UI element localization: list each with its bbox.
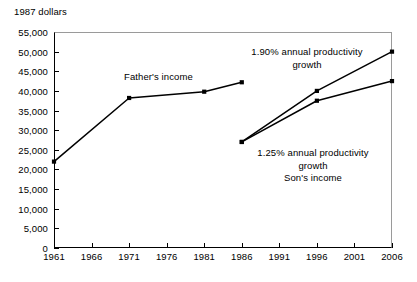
- y-axis-tick-mark: [54, 91, 59, 92]
- y-axis-tick-label: 15,000: [18, 184, 48, 195]
- y-axis-tick-mark: [54, 228, 59, 229]
- y-axis-tick-label: 40,000: [18, 85, 48, 96]
- y-axis-tick-mark: [54, 248, 59, 249]
- x-axis-tick-label: 1976: [156, 251, 178, 262]
- x-axis-tick-mark: [354, 243, 355, 248]
- x-axis-tick-mark: [129, 243, 130, 248]
- y-axis-tick-mark: [54, 111, 59, 112]
- y-axis-tick-label: 25,000: [18, 144, 48, 155]
- x-axis-tick-label: 1971: [118, 251, 140, 262]
- annotation-low-growth: 1.25% annual productivity growth Son's i…: [245, 147, 381, 185]
- x-axis-tick-label: 2006: [381, 251, 403, 262]
- x-axis-tick-label: 2001: [344, 251, 366, 262]
- x-axis-tick-mark: [92, 243, 93, 248]
- x-axis-tick-mark: [242, 243, 243, 248]
- x-axis-tick-label: 1986: [231, 251, 253, 262]
- x-axis-tick-mark: [279, 243, 280, 248]
- chart-container: 1987 dollars 05,00010,00015,00020,00025,…: [0, 0, 417, 282]
- y-axis-tick-label: 50,000: [18, 46, 48, 57]
- y-axis-tick-label: 10,000: [18, 203, 48, 214]
- x-axis-tick-label: 1991: [269, 251, 291, 262]
- x-axis-tick-mark: [392, 243, 393, 248]
- x-axis-tick-mark: [204, 243, 205, 248]
- x-axis-tick-mark: [317, 243, 318, 248]
- y-axis-tick-mark: [54, 71, 59, 72]
- x-axis-tick-label: 1961: [43, 251, 65, 262]
- x-axis-tick-label: 1981: [193, 251, 215, 262]
- x-axis-tick-mark: [54, 243, 55, 248]
- y-axis-tick-label: 20,000: [18, 164, 48, 175]
- y-axis-tick-label: 55,000: [18, 27, 48, 38]
- y-axis-tick-mark: [54, 130, 59, 131]
- x-axis-tick-mark: [167, 243, 168, 248]
- y-axis-tick-label: 30,000: [18, 125, 48, 136]
- y-axis-tick-label: 45,000: [18, 66, 48, 77]
- x-axis-tick-label: 1966: [81, 251, 103, 262]
- y-axis-tick-mark: [54, 189, 59, 190]
- annotation-fathers-income: Father's income: [124, 71, 193, 84]
- y-axis-labels: 05,00010,00015,00020,00025,00030,00035,0…: [0, 0, 48, 282]
- y-axis-tick-mark: [54, 209, 59, 210]
- y-axis-tick-label: 35,000: [18, 105, 48, 116]
- annotation-high-growth: 1.90% annual productivity growth: [241, 46, 373, 71]
- y-axis-tick-mark: [54, 52, 59, 53]
- x-axis-tick-label: 1996: [306, 251, 328, 262]
- y-axis-tick-label: 5,000: [24, 223, 48, 234]
- y-axis-tick-mark: [54, 150, 59, 151]
- y-axis-tick-mark: [54, 169, 59, 170]
